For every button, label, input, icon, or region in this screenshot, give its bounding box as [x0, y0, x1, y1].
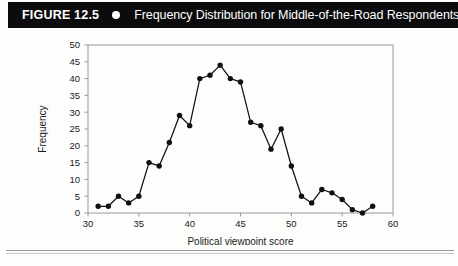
y-axis-title: Frequency	[37, 105, 48, 152]
data-point	[228, 76, 233, 81]
bullet-dot-icon	[112, 11, 120, 19]
y-tick-0: 0	[75, 207, 80, 218]
x-tick-35: 35	[134, 218, 145, 229]
data-point	[146, 160, 151, 165]
frequency-distribution-line-chart: 05101520253035404550 30354045505560 Poli…	[0, 30, 458, 245]
chart-container: 05101520253035404550 30354045505560 Poli…	[0, 30, 458, 245]
data-point	[177, 113, 182, 118]
data-point	[116, 194, 121, 199]
y-tick-15: 15	[69, 157, 80, 168]
figure-number-label: FIGURE 12.5	[22, 8, 99, 22]
data-point	[289, 163, 294, 168]
y-tick-5: 5	[75, 191, 80, 202]
data-point	[156, 163, 161, 168]
data-point	[339, 197, 344, 202]
figure-header-bar: FIGURE 12.5 Frequency Distribution for M…	[8, 2, 458, 28]
figure-title-label: Frequency Distribution for Middle-of-the…	[134, 8, 458, 22]
data-point	[299, 194, 304, 199]
y-tick-35: 35	[69, 90, 80, 101]
data-point	[126, 200, 131, 205]
data-point	[268, 146, 273, 151]
data-point	[187, 123, 192, 128]
data-point	[238, 79, 243, 84]
data-point	[360, 210, 365, 215]
data-point	[95, 204, 100, 209]
x-axis-title: Political viewpoint score	[187, 236, 294, 245]
data-point	[278, 126, 283, 131]
y-tick-30: 30	[69, 107, 80, 118]
y-tick-10: 10	[69, 174, 80, 185]
data-point	[350, 207, 355, 212]
figure-page: FIGURE 12.5 Frequency Distribution for M…	[0, 0, 458, 266]
y-tick-25: 25	[69, 123, 80, 134]
data-point	[329, 190, 334, 195]
x-tick-40: 40	[184, 218, 195, 229]
data-point	[207, 73, 212, 78]
x-tick-55: 55	[337, 218, 348, 229]
x-tick-45: 45	[235, 218, 246, 229]
y-tick-45: 45	[69, 56, 80, 67]
data-point	[258, 123, 263, 128]
x-axis-tick-marks	[88, 213, 393, 217]
page-rule-bottom-line	[6, 253, 454, 254]
plot-frame	[88, 45, 393, 213]
x-tick-30: 30	[83, 218, 94, 229]
data-point	[248, 120, 253, 125]
data-point	[136, 194, 141, 199]
data-point	[217, 62, 222, 67]
y-axis-tick-marks	[85, 45, 89, 213]
y-tick-20: 20	[69, 140, 80, 151]
x-tick-60: 60	[388, 218, 399, 229]
frequency-data-points	[95, 62, 375, 215]
y-tick-50: 50	[69, 39, 80, 50]
data-point	[167, 140, 172, 145]
data-point	[106, 204, 111, 209]
data-point	[370, 204, 375, 209]
page-rule-top-line	[6, 250, 454, 251]
data-point	[309, 200, 314, 205]
data-point	[319, 187, 324, 192]
y-tick-40: 40	[69, 73, 80, 84]
x-axis-tick-labels: 30354045505560	[83, 218, 399, 229]
x-tick-50: 50	[286, 218, 297, 229]
y-axis-tick-labels: 05101520253035404550	[69, 39, 80, 218]
data-point	[197, 76, 202, 81]
